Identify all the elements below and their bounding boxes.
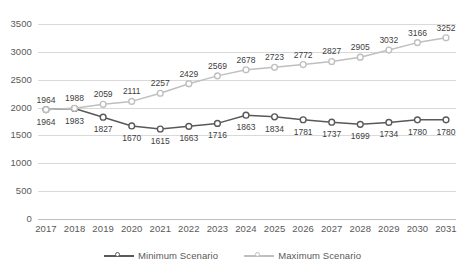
x-axis-line: [38, 219, 456, 220]
legend-item[interactable]: Minimum Scenario: [104, 250, 218, 261]
gridline: [38, 80, 456, 81]
legend-label: Minimum Scenario: [138, 251, 218, 261]
legend-marker-icon: [104, 250, 134, 261]
data-point-label: 1780: [424, 128, 465, 137]
data-point-label: 1827: [81, 125, 125, 134]
data-point-label: 2429: [167, 70, 211, 79]
legend-item[interactable]: Maximum Scenario: [244, 250, 361, 261]
gridline: [38, 163, 456, 164]
chart-legend: Minimum ScenarioMaximum Scenario: [0, 250, 465, 261]
x-axis-tick-label: 2031: [426, 224, 465, 234]
y-axis-tick-label: 0: [0, 214, 32, 224]
gridline: [38, 52, 456, 53]
y-axis-tick-label: 1000: [0, 158, 32, 168]
gridline: [38, 191, 456, 192]
y-axis-tick-label: 1500: [0, 130, 32, 140]
gridline: [38, 108, 456, 109]
y-axis-tick-label: 500: [0, 186, 32, 196]
legend-label: Maximum Scenario: [278, 251, 361, 261]
data-point-label: 2111: [110, 87, 154, 96]
line-chart: 0500100015002000250030003500 20172018201…: [0, 0, 465, 275]
y-axis-tick-label: 3000: [0, 47, 32, 57]
legend-marker-icon: [244, 250, 274, 261]
y-axis-tick-label: 3500: [0, 19, 32, 29]
data-point-label: 1983: [53, 117, 97, 126]
y-axis-tick-label: 2500: [0, 75, 32, 85]
data-point-label: 2257: [138, 79, 182, 88]
gridline: [38, 24, 456, 25]
data-point-label: 3252: [424, 24, 465, 33]
data-point-label: 1716: [195, 131, 239, 140]
